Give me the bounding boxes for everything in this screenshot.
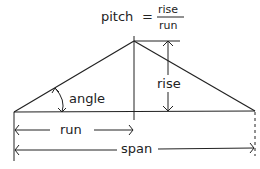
rise-label: rise [157,76,181,91]
span-line-right [158,148,254,149]
span-label: span [121,141,152,156]
angle-label: angle [69,91,105,106]
angle-marker [52,88,66,112]
formula-numerator: rise [158,3,178,16]
formula-denominator: run [159,19,177,32]
formula-equals: = [142,9,153,24]
pitch-formula: pitch = rise run [101,3,184,32]
roof-pitch-diagram: pitch = rise run angle rise run [0,0,260,169]
right-rafter [134,41,255,111]
formula-lhs: pitch [101,9,133,24]
roof-triangle [14,36,255,120]
run-label: run [60,122,82,137]
